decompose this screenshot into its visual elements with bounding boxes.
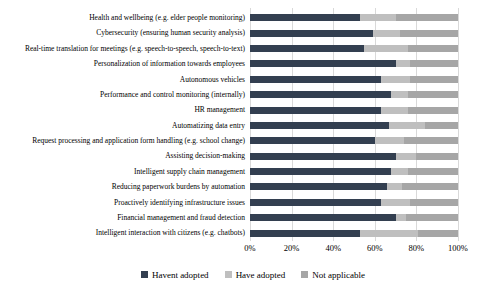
bar-segment-havent-adopted xyxy=(250,14,360,21)
chart-row: Autonomous vehicles xyxy=(0,72,462,87)
x-tick-label: 100% xyxy=(448,243,468,253)
bar-segment-not-applicable xyxy=(402,183,458,190)
category-label: Automatizing data entry xyxy=(0,122,250,130)
bar xyxy=(250,153,458,160)
category-label: Personalization of information towards e… xyxy=(0,60,250,68)
chart-row: Automatizing data entry xyxy=(0,118,462,133)
bar xyxy=(250,230,458,237)
bar-segment-havent-adopted xyxy=(250,107,381,114)
bar-segment-have-adopted xyxy=(391,168,408,175)
category-label: Intelligent interaction with citizens (e… xyxy=(0,229,250,237)
chart-row: Personalization of information towards e… xyxy=(0,56,462,71)
bar xyxy=(250,76,458,83)
chart-row: Reducing paperwork burdens by automation xyxy=(0,179,462,194)
bar-segment-havent-adopted xyxy=(250,153,396,160)
stacked-bar-chart: Health and wellbeing (e.g. elder people … xyxy=(0,10,488,291)
x-axis: 0%20%40%60%80%100% xyxy=(250,243,458,255)
chart-row: Real-time translation for meetings (e.g.… xyxy=(0,41,462,56)
x-tick-label: 60% xyxy=(367,243,383,253)
bar-segment-have-adopted xyxy=(360,230,418,237)
bar-segment-havent-adopted xyxy=(250,60,396,67)
bar-segment-havent-adopted xyxy=(250,137,375,144)
category-label: Financial management and fraud detection xyxy=(0,214,250,222)
bar-segment-havent-adopted xyxy=(250,199,381,206)
chart-row: Intelligent supply chain management xyxy=(0,164,462,179)
chart-row: Health and wellbeing (e.g. elder people … xyxy=(0,10,462,25)
chart-row: Performance and control monitoring (inte… xyxy=(0,87,462,102)
bar xyxy=(250,30,458,37)
bar-segment-havent-adopted xyxy=(250,45,364,52)
bar-segment-not-applicable xyxy=(410,76,458,83)
legend-item-havent-adopted: Havent adopted xyxy=(141,270,209,280)
bar xyxy=(250,60,458,67)
category-label: Request processing and application form … xyxy=(0,137,250,145)
category-label: Assisting decision-making xyxy=(0,152,250,160)
bar-segment-havent-adopted xyxy=(250,230,360,237)
bar-segment-havent-adopted xyxy=(250,122,389,129)
bar xyxy=(250,14,458,21)
legend-item-not-applicable: Not applicable xyxy=(301,270,365,280)
bar-segment-have-adopted xyxy=(396,214,406,221)
bar-segment-havent-adopted xyxy=(250,91,391,98)
legend-label: Havent adopted xyxy=(152,270,209,280)
category-label: HR management xyxy=(0,106,250,114)
chart-row: Proactively identifying infrastructure i… xyxy=(0,195,462,210)
bar-segment-have-adopted xyxy=(375,137,404,144)
bar-segment-have-adopted xyxy=(381,76,410,83)
bar-segment-not-applicable xyxy=(410,60,458,67)
bar xyxy=(250,91,458,98)
bar-segment-not-applicable xyxy=(396,14,458,21)
bar-segment-not-applicable xyxy=(406,214,458,221)
category-label: Autonomous vehicles xyxy=(0,76,250,84)
bar-segment-not-applicable xyxy=(408,168,458,175)
bar-segment-not-applicable xyxy=(408,107,458,114)
chart-row: Intelligent interaction with citizens (e… xyxy=(0,225,462,240)
x-tick-label: 40% xyxy=(325,243,341,253)
bar-segment-not-applicable xyxy=(418,230,458,237)
bar-segment-have-adopted xyxy=(373,30,400,37)
bar-segment-havent-adopted xyxy=(250,76,381,83)
bar xyxy=(250,168,458,175)
bar xyxy=(250,183,458,190)
bar-segment-have-adopted xyxy=(381,107,408,114)
bar xyxy=(250,137,458,144)
x-tick-label: 0% xyxy=(244,243,255,253)
bar-segment-have-adopted xyxy=(364,45,408,52)
bar-segment-have-adopted xyxy=(391,91,408,98)
bar-segment-not-applicable xyxy=(404,137,458,144)
bar-segment-not-applicable xyxy=(408,45,458,52)
bar-segment-not-applicable xyxy=(416,153,458,160)
legend: Havent adoptedHave adoptedNot applicable xyxy=(0,270,488,280)
bar-segment-havent-adopted xyxy=(250,30,373,37)
bar-segment-not-applicable xyxy=(400,30,458,37)
category-label: Performance and control monitoring (inte… xyxy=(0,91,250,99)
bar-segment-have-adopted xyxy=(396,60,411,67)
plot-area: Health and wellbeing (e.g. elder people … xyxy=(0,10,462,241)
bar xyxy=(250,122,458,129)
bar xyxy=(250,107,458,114)
legend-label: Not applicable xyxy=(312,270,365,280)
legend-swatch xyxy=(301,271,308,278)
category-label: Intelligent supply chain management xyxy=(0,168,250,176)
category-label: Real-time translation for meetings (e.g.… xyxy=(0,45,250,53)
bar xyxy=(250,45,458,52)
bar-segment-havent-adopted xyxy=(250,214,396,221)
category-label: Cybersecurity (ensuring human security a… xyxy=(0,29,250,37)
bar-segment-have-adopted xyxy=(389,122,424,129)
bar-segment-have-adopted xyxy=(387,183,402,190)
legend-swatch xyxy=(225,271,232,278)
bar-segment-not-applicable xyxy=(408,91,458,98)
bar xyxy=(250,199,458,206)
chart-row: Request processing and application form … xyxy=(0,133,462,148)
x-tick-label: 80% xyxy=(409,243,425,253)
chart-row: HR management xyxy=(0,102,462,117)
legend-item-have-adopted: Have adopted xyxy=(225,270,286,280)
bar-segment-havent-adopted xyxy=(250,168,391,175)
category-label: Proactively identifying infrastructure i… xyxy=(0,199,250,207)
chart-row: Financial management and fraud detection xyxy=(0,210,462,225)
bar-segment-havent-adopted xyxy=(250,183,387,190)
category-label: Reducing paperwork burdens by automation xyxy=(0,183,250,191)
bar-segment-have-adopted xyxy=(396,153,417,160)
bar-segment-not-applicable xyxy=(410,199,458,206)
legend-swatch xyxy=(141,271,148,278)
